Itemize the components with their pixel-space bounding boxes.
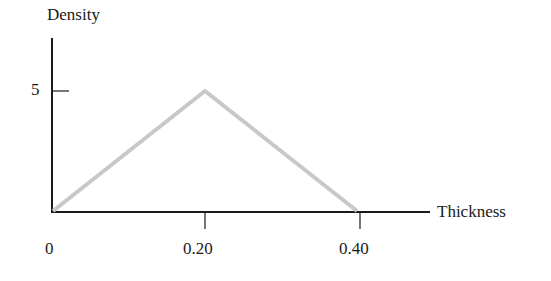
x-axis-label: Thickness: [437, 202, 506, 222]
x-tick-label-0: 0: [45, 239, 54, 259]
y-axis-label: Density: [47, 5, 100, 25]
x-tick-label-020: 0.20: [183, 239, 213, 259]
x-tick-label-040: 0.40: [339, 239, 369, 259]
density-line: [53, 91, 357, 211]
y-tick-label-5: 5: [31, 80, 40, 100]
chart-plot: [0, 0, 551, 281]
